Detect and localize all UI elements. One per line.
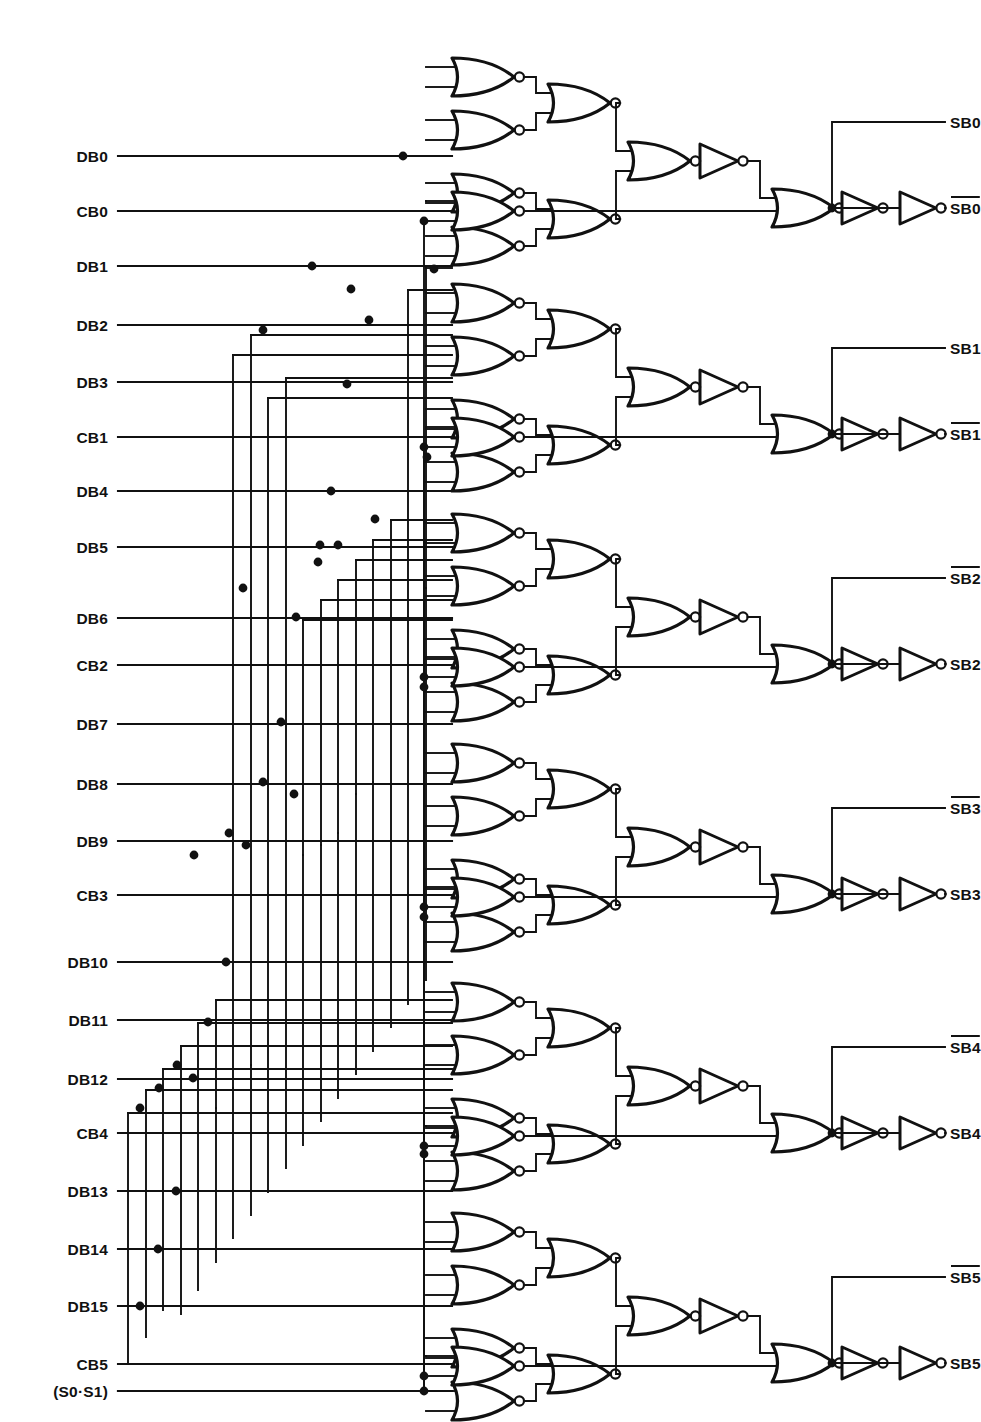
g0-final-nor [772,189,834,227]
input-label-db15: DB15 [68,1298,109,1315]
g1-combine-nor [628,368,690,406]
g0-input-nor-0-bubble [515,72,524,81]
g5-inverter-1-bubble [738,1311,747,1320]
input-label-s0s1: (S0·S1) [53,1383,108,1400]
g5-combine-nor [628,1297,690,1335]
g4-input-nor-1 [452,1036,514,1074]
g0-inverter-1 [700,144,738,178]
routing-junction-27 [155,1084,164,1093]
g2-inverter-1-bubble [738,612,747,621]
output-label-sb2: SB2 [950,656,981,673]
routing-junction-31 [154,1245,163,1254]
input-label-cb0: CB0 [76,203,108,220]
g4-final-nor [772,1114,834,1152]
g2-input-nor-0-bubble [515,528,524,537]
g2-combine-nor [628,598,690,636]
g0-input-nor-2-bubble [515,188,524,197]
input-label-db6: DB6 [76,610,108,627]
g1-input-nor-3-bubble [515,467,524,476]
g0-merge-nor-1 [548,200,610,238]
input-label-db3: DB3 [76,374,108,391]
g2-inverter-1 [700,600,738,634]
g5-input-nor-1-bubble [515,1280,524,1289]
routing-junction-7 [423,453,432,462]
g3-merge-nor-0 [548,770,610,808]
g3-drop-wire [748,847,776,884]
g3-input-nor-0-bubble [515,758,524,767]
g0-drop-wire [748,161,776,198]
g0-combine-nor [628,142,690,180]
g1-input-nor-1 [452,337,514,375]
g3-inverter-1-bubble [738,842,747,851]
routing-junction-22 [420,913,429,922]
g2-input-nor-1-bubble [515,581,524,590]
g4-ctrl-dot [420,1142,429,1151]
routing-junction-14 [292,613,301,622]
g5-input-nor-1 [452,1266,514,1304]
routing-junction-19 [225,829,234,838]
routing-junction-15 [420,683,429,692]
g1-input-nor-0-bubble [515,298,524,307]
input-label-db5: DB5 [76,539,108,556]
g5-merge-nor-0 [548,1239,610,1277]
routing-junction-24 [204,1018,213,1027]
output-label-sb5: SB5 [950,1355,981,1372]
logic-diagram-canvas: DB0CB0DB1DB2DB3CB1DB4DB5DB6CB2DB7DB8DB9C… [0,0,981,1422]
input-label-db7: DB7 [76,716,108,733]
g1-merge-nor-0 [548,310,610,348]
g2-drop-wire [748,617,776,654]
routing-junction-0 [399,152,408,161]
g0-ctrl-dot [420,217,429,226]
g1-check-nor-bubble [515,432,524,441]
g4-input-nor-0-bubble [515,997,524,1006]
g5-check-nor-bubble [515,1361,524,1370]
g1-input-nor-2-bubble [515,414,524,423]
g0-input-nor-1 [452,111,514,149]
input-label-cb1: CB1 [76,429,108,446]
g5-input-nor-3-bubble [515,1396,524,1405]
g0-inverter-3 [900,192,936,224]
g5-input-nor-3 [452,1382,514,1420]
g4-combine-nor [628,1067,690,1105]
input-label-db12: DB12 [68,1071,108,1088]
g4-input-nor-1-bubble [515,1050,524,1059]
g2-final-nor [772,645,834,683]
g2-input-nor-2-bubble [515,644,524,653]
routing-junction-32 [136,1302,145,1311]
g5-drop-wire [748,1316,776,1353]
routing-junction-9 [371,515,380,524]
g0-check-nor-bubble [515,206,524,215]
schematic-sheet: DB0CB0DB1DB2DB3CB1DB4DB5DB6CB2DB7DB8DB9C… [0,0,981,1422]
g2-ctrl-dot [420,673,429,682]
g0-input-nor-0 [452,58,514,96]
output-label-sb1-bar: SB1 [950,426,981,443]
g4-merge-nor-1 [548,1125,610,1163]
g4-input-nor-2-bubble [515,1113,524,1122]
routing-junction-10 [316,541,325,550]
routing-junction-5 [365,316,374,325]
routing-junction-3 [430,265,439,274]
input-label-db1: DB1 [76,258,108,275]
g5-input-nor-0-bubble [515,1227,524,1236]
input-label-db13: DB13 [68,1183,109,1200]
g5-inverter-1 [700,1299,738,1333]
output-label-sb3: SB3 [950,886,981,903]
g1-inverter-1 [700,370,738,404]
g0-input-nor-1-bubble [515,125,524,134]
g3-combine-nor [628,828,690,866]
g3-input-nor-1-bubble [515,811,524,820]
input-label-cb5: CB5 [76,1356,108,1373]
g0-inverter-1-bubble [738,156,747,165]
routing-junction-4 [259,326,268,335]
output-label-sb2-bar: SB2 [950,570,981,587]
g3-merge-nor-1 [548,886,610,924]
routing-junction-16 [277,718,286,727]
output-label-sb4-bar: SB4 [950,1039,981,1056]
output-label-sb5-bar: SB5 [950,1269,981,1286]
g2-input-nor-3 [452,683,514,721]
routing-junction-21 [190,851,199,860]
routing-junction-20 [242,841,251,850]
routing-junction-17 [290,790,299,799]
input-label-cb3: CB3 [76,887,108,904]
g1-drop-wire [748,387,776,424]
